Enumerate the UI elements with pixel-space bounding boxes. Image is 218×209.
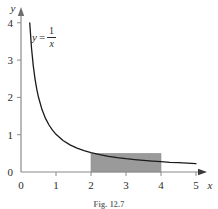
x-tick-label-2: 2: [88, 179, 94, 191]
equation-denominator: x: [47, 38, 55, 49]
y-tick-label-3: 3: [8, 54, 14, 66]
x-tick-label-1: 1: [53, 179, 59, 191]
curve-equation-annotation: y = 1 x: [32, 26, 56, 49]
equation-fraction: 1 x: [47, 26, 56, 49]
equation-lhs: y: [32, 32, 37, 43]
y-axis-arrowhead: [18, 7, 24, 16]
figure-caption: Fig. 12.7: [0, 200, 218, 209]
y-tick-label-4: 4: [8, 17, 14, 29]
y-tick-label-1: 1: [8, 129, 14, 141]
x-axis-arrowhead: [198, 169, 207, 175]
y-tick-label-2: 2: [8, 91, 14, 103]
figure-container: 0 1 2 3 4 5 0 1 2 3 4 y x y = 1 x Fig. 1…: [0, 0, 218, 209]
equation-numerator: 1: [47, 26, 56, 37]
y-tick-label-0: 0: [8, 166, 14, 178]
x-tick-label-0: 0: [18, 179, 24, 191]
shaded-region-rectangle: [91, 153, 161, 172]
y-axis-label: y: [10, 2, 16, 14]
x-tick-label-5: 5: [193, 179, 199, 191]
x-tick-label-3: 3: [123, 179, 129, 191]
x-axis-label: x: [207, 179, 213, 191]
x-tick-label-4: 4: [158, 179, 164, 191]
equation-equals-sign: =: [39, 32, 45, 43]
